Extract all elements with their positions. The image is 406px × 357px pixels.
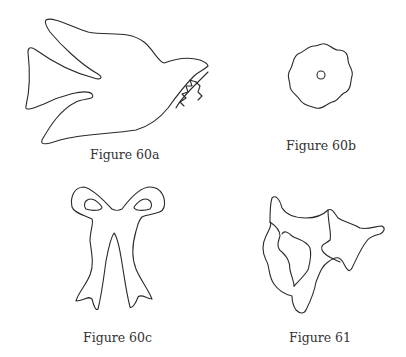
figure-60c-bow — [40, 175, 210, 325]
figure-61-caption: Figure 61 — [289, 330, 351, 345]
figure-61-blossoms — [240, 190, 406, 330]
figure-60a-dove — [0, 0, 210, 150]
figure-60a-caption: Figure 60a — [90, 147, 159, 162]
rosette-outline-icon — [240, 30, 406, 130]
figure-60c-caption: Figure 60c — [83, 330, 152, 345]
blossom-outline-icon — [240, 190, 406, 330]
bow-outline-icon — [40, 175, 210, 325]
figure-60b-caption: Figure 60b — [286, 138, 356, 153]
dove-outline-icon — [0, 0, 210, 150]
figure-60b-rosette — [240, 30, 406, 130]
